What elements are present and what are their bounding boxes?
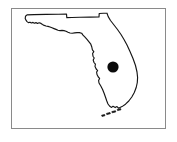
florida-state-outline bbox=[25, 13, 137, 108]
florida-keys-island-1 bbox=[117, 109, 121, 111]
florida-keys-island-2 bbox=[112, 111, 116, 113]
florida-keys-island-4 bbox=[102, 115, 105, 117]
florida-keys-island-3 bbox=[106, 113, 110, 115]
location-dot-marker bbox=[107, 61, 118, 72]
map-canvas bbox=[0, 0, 177, 142]
florida-location-map bbox=[0, 0, 177, 142]
